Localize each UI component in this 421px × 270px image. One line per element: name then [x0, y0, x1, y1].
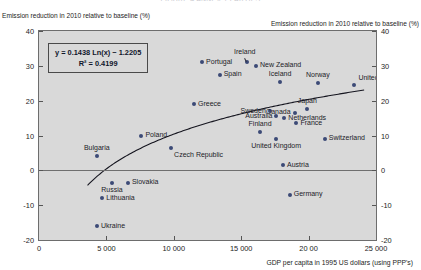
y-axis-tick [372, 170, 376, 171]
data-point [95, 154, 99, 158]
y-axis-tick [39, 31, 43, 32]
data-point-label: Finland [249, 120, 272, 127]
data-point-label: United Kingdom [251, 142, 301, 149]
data-point [323, 137, 327, 141]
data-point [139, 134, 143, 138]
data-point-label: Iceland [269, 70, 292, 77]
data-point [274, 137, 278, 141]
data-point [293, 111, 297, 115]
data-point [95, 224, 99, 228]
y-axis-tick-label-right: 40 [381, 27, 407, 36]
data-point [278, 80, 282, 84]
regression-equation: y = 0.1438 Ln(x) − 1.2205 [55, 47, 141, 58]
data-point-label: United States [358, 74, 376, 81]
regression-equation-box: y = 0.1438 Ln(x) − 1.2205 R² = 0.4199 [48, 43, 148, 73]
y-axis-tick-label-right: 0 [381, 166, 407, 175]
data-point [200, 60, 204, 64]
y-axis-tick [372, 136, 376, 137]
data-point [352, 83, 356, 87]
data-point-label: Canada [266, 108, 291, 115]
data-point-label: Greece [198, 100, 221, 107]
data-point [294, 121, 298, 125]
data-point-label: Russia [101, 186, 122, 193]
data-point-label: Lithuania [106, 194, 134, 201]
x-axis-title: GDP per capita in 1995 US dollars (using… [266, 259, 413, 266]
y-axis-tick-label-right: 20 [381, 97, 407, 106]
y-axis-tick [39, 136, 43, 137]
data-point-label: Ireland [234, 48, 255, 55]
y-axis-tick [39, 66, 43, 67]
data-point-label: Slovakia [132, 178, 158, 185]
y-axis-tick [372, 205, 376, 206]
y-axis-tick [39, 205, 43, 206]
x-axis-tick-label: 15 000 [219, 244, 263, 253]
data-point [192, 102, 196, 106]
data-point [316, 81, 320, 85]
data-point [126, 181, 130, 185]
y-axis-tick [39, 170, 43, 171]
x-axis-tick-label: 20 00 [287, 244, 331, 253]
data-point-label: Bulgaria [84, 144, 110, 151]
y-axis-tick-label-right: -10 [381, 201, 407, 210]
data-point [282, 116, 286, 120]
data-point [100, 196, 104, 200]
y-axis-note-left: Emission reduction in 2010 relative to b… [2, 12, 150, 19]
data-point-label: Poland [145, 131, 167, 138]
y-axis-tick-label-left: 30 [8, 62, 34, 71]
y-axis-tick-label-right: 30 [381, 62, 407, 71]
data-point [110, 181, 114, 185]
data-point [218, 73, 222, 77]
data-point [281, 163, 285, 167]
y-axis-tick [372, 101, 376, 102]
zero-gridline [39, 170, 376, 171]
y-axis-tick-label-right: 10 [381, 132, 407, 141]
data-point [258, 130, 262, 134]
data-point-label: Austria [287, 161, 309, 168]
x-axis-tick-label: 0 [17, 244, 61, 253]
data-point-label: Portugal [206, 58, 232, 65]
y-axis-tick-label-left: 40 [8, 27, 34, 36]
data-point-label: Japan [298, 97, 317, 104]
data-point-label: Ukraine [101, 222, 125, 229]
data-point-label: France [300, 119, 322, 126]
x-axis-tick [174, 236, 175, 240]
x-axis-tick [309, 236, 310, 240]
y-axis-tick-label-left: 0 [8, 166, 34, 175]
x-axis-tick-label: 25 000 [354, 244, 398, 253]
chart-cut-title: FIGURE 4 ANNEX 1 PARTIES [0, 0, 421, 1]
chart-root: FIGURE 4 ANNEX 1 PARTIES Emission reduct… [0, 0, 421, 270]
x-axis-tick-label: 5 000 [84, 244, 128, 253]
y-axis-note-right: Emission reduction in 2010 relative to b… [271, 20, 419, 27]
y-axis-tick [39, 101, 43, 102]
data-point-label: Switzerland [329, 134, 365, 141]
y-axis-tick [372, 66, 376, 67]
x-axis-tick [241, 236, 242, 240]
data-point-label: New Zealand [260, 61, 301, 68]
y-axis-tick [372, 31, 376, 32]
data-point-label: Spain [224, 70, 242, 77]
x-axis-tick [106, 236, 107, 240]
data-point [254, 64, 258, 68]
data-point [169, 146, 173, 150]
y-axis-tick-label-left: -10 [8, 201, 34, 210]
data-point [305, 107, 309, 111]
data-point [288, 193, 292, 197]
y-axis-tick-label-left: 20 [8, 97, 34, 106]
x-axis-tick-label: 10 000 [152, 244, 196, 253]
data-point-label: Germany [294, 190, 323, 197]
regression-r2: R² = 0.4199 [55, 58, 141, 69]
data-point-label: Czech Republic [174, 151, 223, 158]
y-axis-tick-label-left: 10 [8, 132, 34, 141]
data-point-label: Norway [306, 71, 330, 78]
